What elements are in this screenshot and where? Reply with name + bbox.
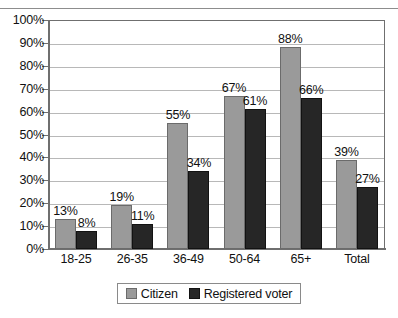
y-axis-label: 0% [26,242,44,256]
bar-value-label: 61% [243,94,267,108]
bar-value-label: 55% [166,108,190,122]
bar-value-label: 34% [187,156,211,170]
bar-registered-voter [76,231,97,249]
bar-citizen [224,96,245,249]
y-axis-label: 100% [13,13,44,27]
bar-value-label: 13% [53,204,77,218]
bar-chart: 100%90%80%70%60%50%40%30%20%10%0% 18-252… [0,0,398,318]
y-axis-label: 40% [20,150,44,164]
bar-registered-voter [301,98,322,249]
x-axis-label: 50-64 [217,252,273,266]
bar-registered-voter [245,109,266,249]
bar-value-label: 19% [110,190,134,204]
legend-item-registered-voter: Registered voter [189,287,293,301]
gridline [49,181,384,182]
bar-citizen [111,205,132,249]
bar-value-label: 67% [222,81,246,95]
y-axis-label: 30% [20,173,44,187]
gridline [49,136,384,137]
x-axis-label: 26-35 [104,252,160,266]
bar-citizen [167,123,188,249]
bar-value-label: 66% [299,83,323,97]
bar-registered-voter [357,187,378,249]
legend-label-registered-voter: Registered voter [204,287,293,301]
x-axis-label: 18-25 [48,252,104,266]
gridline [49,44,384,45]
gridline [49,227,384,228]
bar-value-label: 39% [334,145,358,159]
x-axis-label: 65+ [273,252,329,266]
gridline [49,67,384,68]
y-axis-label: 10% [20,219,44,233]
bar-citizen [336,160,357,249]
legend-label-citizen: Citizen [141,287,178,301]
y-axis-label: 20% [20,196,44,210]
legend-item-citizen: Citizen [126,287,178,301]
bar-citizen [55,219,76,249]
legend-swatch-citizen [126,288,137,299]
bar-value-label: 27% [355,172,379,186]
legend-swatch-registered-voter [189,288,200,299]
bar-registered-voter [188,171,209,249]
bar-citizen [280,47,301,249]
x-axis-label: 36-49 [160,252,216,266]
bar-value-label: 8% [78,216,96,230]
y-axis-label: 60% [20,105,44,119]
bar-value-label: 11% [131,209,155,223]
gridline [49,204,384,205]
gridline [49,113,384,114]
bar-registered-voter [132,224,153,249]
top-horizontal-rule [0,8,398,9]
gridline [49,90,384,91]
bar-value-label: 88% [278,32,302,46]
y-axis-label: 80% [20,59,44,73]
y-axis-label: 70% [20,82,44,96]
y-axis-label: 50% [20,128,44,142]
chart-legend: Citizen Registered voter [117,283,301,304]
y-axis-label: 90% [20,36,44,50]
x-axis-label: Total [329,252,385,266]
plot-area [48,20,385,249]
